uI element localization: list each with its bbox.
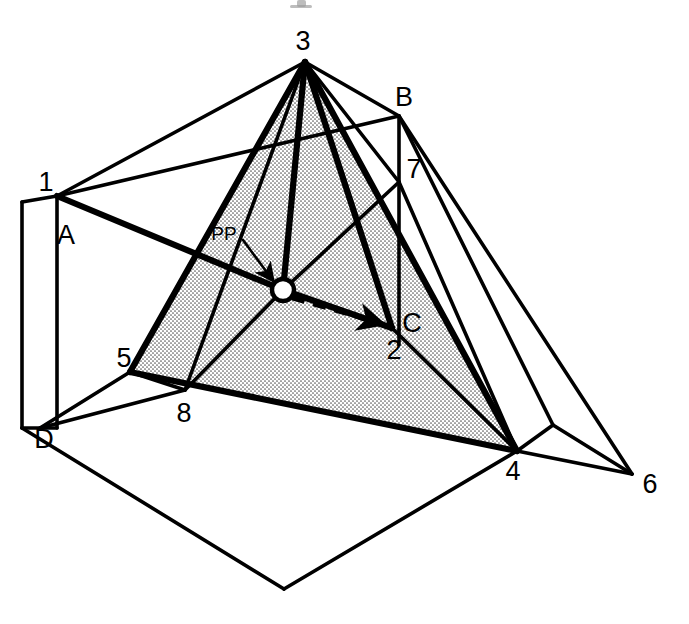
projection-point-circle	[272, 279, 294, 301]
label-point-D: D	[34, 424, 54, 454]
projection-diagram-svg: 1 2 3 4 5 6 7 8 A B C D PP	[0, 0, 689, 624]
label-point-1: 1	[38, 167, 53, 197]
scan-artifact	[290, 0, 312, 8]
label-point-5: 5	[116, 343, 131, 373]
edge-D-5	[40, 372, 130, 428]
label-point-3: 3	[295, 26, 310, 56]
label-point-2: 2	[386, 335, 401, 365]
label-point-7: 7	[406, 154, 421, 184]
edge-hexB-4	[284, 451, 517, 589]
edge-hexL-hexB	[22, 428, 284, 589]
diagram-canvas: 1 2 3 4 5 6 7 8 A B C D PP	[0, 0, 689, 624]
label-point-6: 6	[642, 469, 657, 499]
edge-hexR-4	[517, 425, 553, 451]
label-point-C: C	[402, 308, 422, 338]
label-point-4: 4	[505, 456, 520, 486]
edge-D-8	[40, 390, 185, 428]
label-point-A: A	[57, 220, 75, 250]
label-point-B: B	[395, 82, 413, 112]
label-point-8: 8	[176, 398, 191, 428]
label-annotation-pp: PP	[211, 223, 236, 244]
